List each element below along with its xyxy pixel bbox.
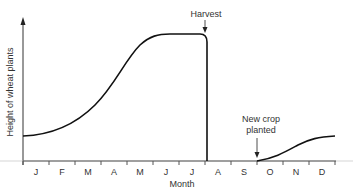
month-label: M (136, 167, 144, 177)
month-label: S (241, 167, 247, 177)
month-label: D (319, 167, 326, 177)
month-label: N (293, 167, 300, 177)
month-label: A (215, 167, 221, 177)
y-axis-title: Height of wheat plants (5, 47, 15, 137)
month-label: J (164, 167, 169, 177)
new-crop-curve (257, 136, 335, 161)
month-labels: J F M A M J J A S O N D (34, 167, 326, 177)
month-label: M (84, 167, 92, 177)
harvest-arrow-icon (203, 27, 208, 33)
month-label: A (111, 167, 117, 177)
month-label: F (59, 167, 65, 177)
y-axis-arrow-icon (21, 17, 26, 25)
wheat-growth-curve (23, 34, 207, 161)
x-axis-title: Month (169, 179, 194, 189)
wheat-growth-chart: J F M A M J J A S O N D Month Height of … (0, 0, 353, 191)
new-crop-arrow-icon (255, 152, 260, 158)
new-crop-annotation-line2: planted (246, 125, 276, 135)
harvest-annotation: Harvest (190, 9, 222, 19)
x-axis-ticks (23, 161, 335, 165)
new-crop-annotation-line1: New crop (242, 114, 280, 124)
month-label: J (190, 167, 195, 177)
month-label: O (266, 167, 273, 177)
month-label: J (34, 167, 39, 177)
